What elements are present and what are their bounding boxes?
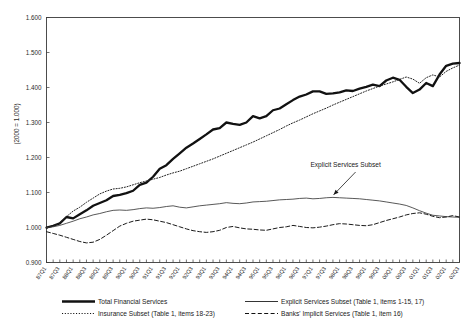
x-tick-label: 99Q3 xyxy=(368,266,381,281)
x-tick-label: 00Q1 xyxy=(381,266,394,281)
x-tick-label: 90Q1 xyxy=(114,266,127,281)
legend-label: Explicit Services Subset (Table 1, items… xyxy=(281,298,424,306)
x-tick-label: 89Q3 xyxy=(101,266,114,281)
y-tick-label: 1.400 xyxy=(26,84,42,91)
y-axis-title-text: (2000 = 1.000) xyxy=(13,103,21,144)
y-tick-label: 0.900 xyxy=(26,259,42,266)
x-tick-label: 93Q3 xyxy=(208,266,221,281)
x-tick-label: 98Q3 xyxy=(341,266,354,281)
x-tick-label: 95Q1 xyxy=(248,266,261,281)
y-tick-label: 1.500 xyxy=(26,49,42,56)
y-axis-title: (2000 = 1.000) xyxy=(13,103,21,144)
x-tick-label: 91Q3 xyxy=(154,266,167,281)
chart-annotation: Explicit Services Subset xyxy=(310,161,381,195)
x-tick-label: 90Q3 xyxy=(128,266,141,281)
x-tick-label: 97Q1 xyxy=(301,266,314,281)
x-tick-label: 94Q3 xyxy=(234,266,247,281)
y-tick-label: 1.300 xyxy=(26,119,42,126)
series-line-2 xyxy=(47,197,460,227)
legend-entry: Explicit Services Subset (Table 1, items… xyxy=(245,298,424,306)
legend-label: Total Financial Services xyxy=(98,298,168,305)
x-tick-label: 01Q3 xyxy=(421,266,434,281)
x-tick-label: 95Q3 xyxy=(261,266,274,281)
x-tick-label: 97Q3 xyxy=(314,266,327,281)
plot-frame xyxy=(47,18,460,263)
y-tick-label: 1.000 xyxy=(26,224,42,231)
chart-container: 0.9001.0001.1001.2001.3001.4001.5001.600… xyxy=(0,0,469,327)
x-tick-label: 89Q1 xyxy=(88,266,101,281)
x-axis-tick-labels: 87Q187Q388Q188Q389Q189Q390Q190Q391Q191Q3… xyxy=(35,266,461,281)
x-tick-label: 96Q3 xyxy=(288,266,301,281)
x-tick-label: 92Q3 xyxy=(181,266,194,281)
x-tick-label: 02Q1 xyxy=(434,266,447,281)
y-tick-label: 1.200 xyxy=(26,154,42,161)
x-tick-label: 87Q1 xyxy=(35,266,48,281)
x-tick-label: 99Q1 xyxy=(354,266,367,281)
x-tick-label: 94Q1 xyxy=(221,266,234,281)
x-tick-label: 00Q3 xyxy=(394,266,407,281)
x-axis-tickmarks xyxy=(47,260,460,263)
y-axis-tick-labels: 0.9001.0001.1001.2001.3001.4001.5001.600 xyxy=(26,14,42,266)
legend-label: Insurance Subset (Table 1, items 18-23) xyxy=(98,310,215,318)
x-tick-label: 92Q1 xyxy=(168,266,181,281)
x-tick-label: 98Q1 xyxy=(328,266,341,281)
annotation-label: Explicit Services Subset xyxy=(310,161,381,169)
x-tick-label: 88Q1 xyxy=(61,266,74,281)
x-tick-label: 91Q1 xyxy=(141,266,154,281)
series-line-0 xyxy=(47,63,460,228)
x-tick-label: 87Q3 xyxy=(48,266,61,281)
legend-entry: Banks' Implicit Services (Table 1, item … xyxy=(245,310,403,318)
y-tick-label: 1.600 xyxy=(26,14,42,21)
x-tick-label: 01Q1 xyxy=(408,266,421,281)
legend-label: Banks' Implicit Services (Table 1, item … xyxy=(281,310,403,318)
series-line-3 xyxy=(47,213,460,243)
line-chart: 0.9001.0001.1001.2001.3001.4001.5001.600… xyxy=(0,0,469,327)
chart-legend: Total Financial ServicesExplicit Service… xyxy=(62,298,424,318)
legend-entry: Insurance Subset (Table 1, items 18-23) xyxy=(62,310,215,318)
x-tick-label: 88Q3 xyxy=(75,266,88,281)
legend-entry: Total Financial Services xyxy=(62,298,168,305)
x-tick-label: 02Q3 xyxy=(448,266,461,281)
y-tick-label: 1.100 xyxy=(26,189,42,196)
x-tick-label: 93Q1 xyxy=(194,266,207,281)
data-series-group xyxy=(47,63,460,243)
x-tick-label: 96Q1 xyxy=(274,266,287,281)
